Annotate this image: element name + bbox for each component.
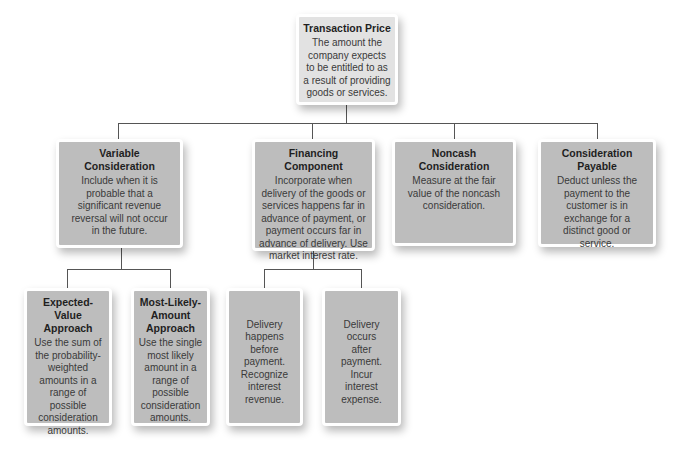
- node-transaction-price: Transaction Price The amount the company…: [296, 14, 398, 105]
- connector-level1-bar: [118, 123, 598, 124]
- node-noncash-consideration: Noncash Consideration Measure at the fai…: [392, 139, 516, 246]
- node-title: Variable Consideration: [63, 147, 176, 173]
- connector-root-stem: [346, 104, 347, 123]
- node-title: Noncash Consideration: [399, 147, 509, 173]
- node-most-likely-amount-approach: Most-Likely-Amount Approach Use the sing…: [131, 288, 210, 426]
- node-expected-value-approach: Expected-Value Approach Use the sum of t…: [24, 288, 112, 426]
- node-title: Expected-Value Approach: [31, 296, 105, 335]
- node-description: Delivery happens before payment. Recogni…: [233, 319, 296, 407]
- node-title: Transaction Price: [303, 22, 391, 35]
- connector-variable-bar: [67, 269, 171, 270]
- node-delivery-after-payment: Delivery occurs after payment. Incur int…: [322, 288, 401, 426]
- node-description: Measure at the fair value of the noncash…: [399, 175, 509, 213]
- node-title: Financing Component: [259, 147, 368, 173]
- connector-to-delivery-after: [361, 269, 362, 290]
- connector-financing-bar: [264, 269, 362, 270]
- node-description: Use the single most likely amount in a r…: [138, 337, 203, 425]
- connector-variable-stem: [121, 247, 122, 269]
- node-description: Use the sum of the probability-weighted …: [31, 337, 105, 437]
- node-description: Deduct unless the payment to the custome…: [545, 175, 649, 250]
- node-variable-consideration: Variable Consideration Include when it i…: [56, 139, 183, 248]
- node-description: Include when it is probable that a signi…: [63, 175, 176, 238]
- connector-to-delivery-before: [264, 269, 265, 290]
- node-title: Most-Likely-Amount Approach: [138, 296, 203, 335]
- connector-to-expected: [67, 269, 68, 290]
- node-financing-component: Financing Component Incorporate when del…: [252, 139, 375, 251]
- node-title: Consideration Payable: [545, 147, 649, 173]
- connector-to-most-likely: [170, 269, 171, 290]
- node-description: Incorporate when delivery of the goods o…: [259, 175, 368, 263]
- node-description: The amount the company expects to be ent…: [303, 37, 391, 100]
- node-consideration-payable: Consideration Payable Deduct unless the …: [538, 139, 656, 247]
- node-delivery-before-payment: Delivery happens before payment. Recogni…: [226, 288, 303, 426]
- node-description: Delivery occurs after payment. Incur int…: [329, 319, 394, 407]
